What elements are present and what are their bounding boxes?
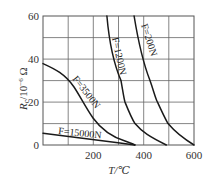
ytick-60: 60 xyxy=(28,10,40,22)
xtick-600: 600 xyxy=(186,149,203,161)
contact-resistance-chart: F=200N F=1200N F=3500N F=15000N 60 40 20… xyxy=(0,0,212,183)
label-f-200n: F=200N xyxy=(139,22,160,57)
curve-labels: F=200N F=1200N F=3500N F=15000N xyxy=(58,22,160,140)
y-axis-ticks: 60 40 20 0 xyxy=(28,10,40,151)
ytick-0: 0 xyxy=(34,139,40,151)
label-f-15000n: F=15000N xyxy=(58,125,102,140)
y-axis-title: Rc/10−6 Ω xyxy=(17,67,31,111)
x-axis-ticks: 200 400 600 xyxy=(85,149,203,161)
xtick-400: 400 xyxy=(135,149,152,161)
xtick-200: 200 xyxy=(85,149,102,161)
ytick-40: 40 xyxy=(28,53,40,65)
label-f-3500n: F=3500N xyxy=(70,73,102,110)
y-axis-title-rest: /10 xyxy=(17,85,29,100)
x-axis-title: T/℃ xyxy=(108,164,130,176)
y-axis-title-unit: Ω xyxy=(17,67,29,78)
